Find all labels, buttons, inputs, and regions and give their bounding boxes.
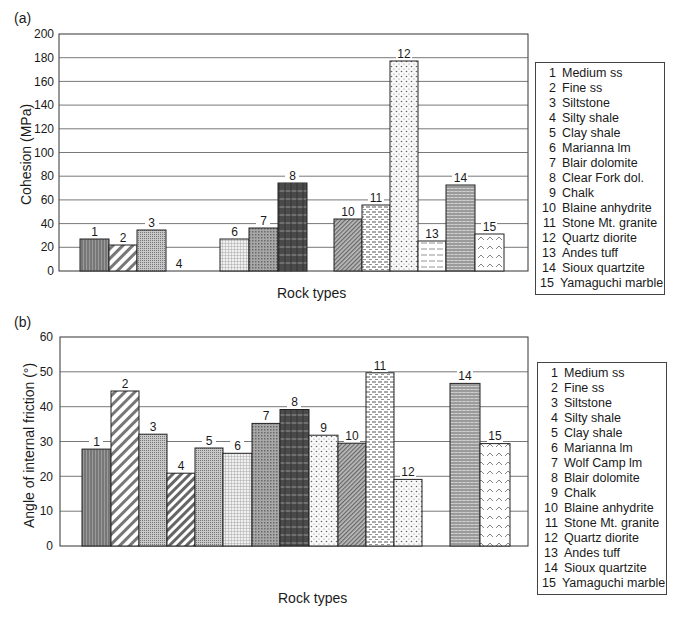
legend-item: 13Andes tuff	[540, 246, 660, 261]
legend-item: 1Medium ss	[542, 366, 662, 381]
legend-item: 12Quartz diorite	[542, 531, 662, 546]
legend-item: 10Blaine anhydrite	[540, 201, 660, 216]
legend-item: 6Marianna lm	[540, 141, 660, 156]
legend-item: 9Chalk	[542, 486, 662, 501]
legend-item: 10Blaine anhydrite	[542, 501, 662, 516]
svg-text:100: 100	[34, 146, 54, 160]
chart-b-yticks: 01020 304050 60	[40, 330, 54, 553]
legend-item: 14Sioux quartzite	[540, 261, 660, 276]
svg-text:5: 5	[206, 434, 213, 448]
legend-item: 7Blair dolomite	[540, 156, 660, 171]
legend-item: 3Siltstone	[540, 96, 660, 111]
svg-text:2: 2	[122, 377, 129, 391]
svg-text:60: 60	[40, 330, 54, 344]
svg-text:14: 14	[458, 369, 472, 383]
svg-text:12: 12	[401, 465, 415, 479]
svg-text:180: 180	[34, 51, 54, 65]
svg-text:14: 14	[454, 171, 468, 185]
svg-text:2: 2	[120, 231, 127, 245]
legend-item: 9Chalk	[540, 186, 660, 201]
svg-text:20: 20	[40, 470, 54, 484]
svg-text:60: 60	[41, 193, 55, 207]
svg-text:10: 10	[40, 504, 54, 518]
svg-text:10: 10	[345, 429, 359, 443]
svg-text:80: 80	[41, 169, 55, 183]
svg-text:6: 6	[231, 225, 238, 239]
legend-item: 11Stone Mt. granite	[542, 516, 662, 531]
svg-text:1: 1	[91, 225, 98, 239]
svg-text:30: 30	[40, 435, 54, 449]
svg-text:9: 9	[320, 421, 327, 435]
svg-text:11: 11	[374, 359, 387, 373]
legend-item: 5Clay shale	[540, 126, 660, 141]
legend-item: 2Fine ss	[542, 381, 662, 396]
svg-text:40: 40	[41, 217, 55, 231]
svg-text:0: 0	[47, 264, 54, 278]
legend-item: 2Fine ss	[540, 81, 660, 96]
legend-item: 4Silty shale	[542, 411, 662, 426]
legend-item: 15Yamaguchi marble	[540, 276, 660, 291]
svg-text:50: 50	[40, 365, 54, 379]
svg-text:3: 3	[150, 420, 157, 434]
legend-item: 8Blair dolomite	[542, 471, 662, 486]
svg-text:120: 120	[34, 122, 54, 136]
svg-text:140: 140	[34, 98, 54, 112]
chart-a-yticks: 02040 6080100 120140160 180200	[34, 27, 54, 278]
svg-text:4: 4	[178, 459, 185, 473]
svg-text:15: 15	[483, 220, 497, 234]
legend-item: 7Wolf Camp lm	[542, 456, 662, 471]
svg-text:0: 0	[46, 539, 53, 553]
svg-text:4: 4	[176, 257, 183, 271]
svg-text:6: 6	[234, 439, 241, 453]
chart-a-legend: 1Medium ss 2Fine ss 3Siltstone 4Silty sh…	[535, 62, 665, 295]
svg-text:8: 8	[291, 395, 298, 409]
legend-item: 3Siltstone	[542, 396, 662, 411]
legend-item: 13Andes tuff	[542, 546, 662, 561]
svg-text:7: 7	[263, 409, 270, 423]
legend-item: 1Medium ss	[540, 66, 660, 81]
svg-text:200: 200	[34, 27, 54, 41]
svg-text:11: 11	[370, 191, 383, 205]
chart-b: 01020 304050 60 1 2 3 4 5 6	[40, 330, 528, 553]
legend-item: 8Clear Fork dol.	[540, 171, 660, 186]
svg-text:10: 10	[341, 205, 355, 219]
chart-b-legend: 1Medium ss 2Fine ss 3Siltstone 4Silty sh…	[537, 362, 667, 595]
legend-item: 6Marianna lm	[542, 441, 662, 456]
chart-a: 02040 6080100 120140160 180200 1 2 3 4 6…	[34, 27, 528, 278]
legend-item: 12Quartz diorite	[540, 231, 660, 246]
legend-item: 11Stone Mt. granite	[540, 216, 660, 231]
svg-text:160: 160	[34, 75, 54, 89]
svg-text:7: 7	[260, 214, 267, 228]
legend-item: 5Clay shale	[542, 426, 662, 441]
legend-item: 14Sioux quartzite	[542, 561, 662, 576]
legend-item: 4Silty shale	[540, 111, 660, 126]
svg-text:1: 1	[93, 435, 100, 449]
svg-text:13: 13	[425, 227, 439, 241]
svg-text:3: 3	[148, 216, 155, 230]
svg-text:20: 20	[41, 240, 55, 254]
legend-item: 15Yamaguchi marble	[542, 576, 662, 591]
svg-text:15: 15	[488, 429, 502, 443]
svg-text:40: 40	[40, 400, 54, 414]
svg-text:12: 12	[397, 47, 411, 61]
svg-text:8: 8	[289, 169, 296, 183]
